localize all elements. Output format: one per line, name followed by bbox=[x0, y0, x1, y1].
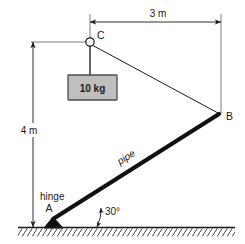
hinge-label: hinge bbox=[40, 191, 65, 202]
ring-at-c bbox=[86, 38, 94, 46]
angle-label: 30° bbox=[105, 206, 120, 217]
pipe-label: pipe bbox=[114, 147, 137, 167]
ground-hatching bbox=[18, 228, 235, 236]
load-label: 10 kg bbox=[80, 83, 106, 94]
engineering-diagram: 3 m 4 m C 10 kg pipe B A hinge 30° bbox=[0, 0, 245, 244]
dimension-label-horizontal: 3 m bbox=[150, 8, 167, 19]
point-label-c: C bbox=[97, 29, 105, 41]
hinge-support-triangle bbox=[44, 217, 63, 228]
diagram-canvas: 3 m 4 m C 10 kg pipe B A hinge 30° bbox=[0, 0, 245, 244]
dimension-label-vertical: 4 m bbox=[21, 125, 38, 136]
point-label-a: A bbox=[45, 202, 52, 214]
point-label-b: B bbox=[226, 110, 233, 122]
angle-arc-30 bbox=[97, 208, 101, 227]
pipe-member bbox=[53, 114, 219, 219]
